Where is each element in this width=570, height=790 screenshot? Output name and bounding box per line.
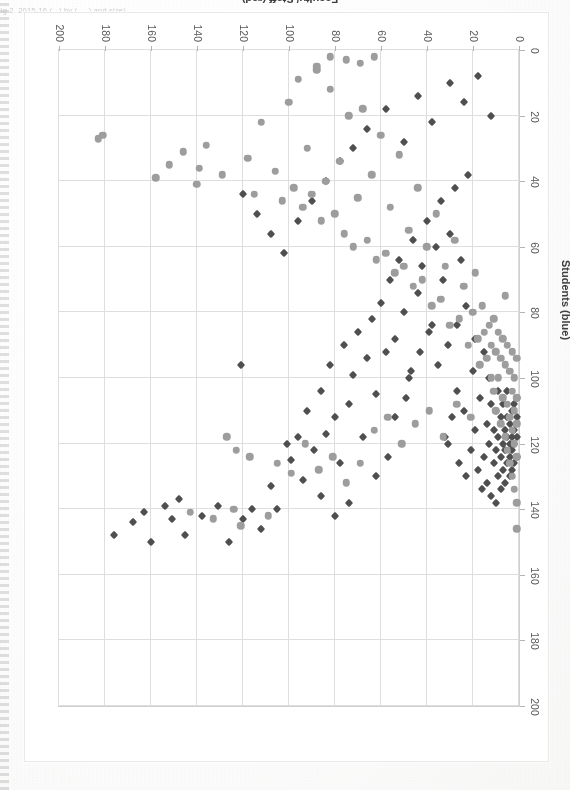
- data-point: [370, 427, 378, 435]
- data-point: [400, 138, 408, 146]
- page-edge-bleed: [0, 0, 9, 790]
- data-point: [349, 144, 357, 152]
- data-point: [460, 282, 468, 290]
- data-point: [469, 309, 477, 317]
- data-point: [508, 473, 516, 481]
- y-tick-label: 80: [529, 308, 541, 320]
- plot-area: [58, 49, 520, 707]
- data-point: [409, 236, 417, 244]
- data-point: [400, 263, 408, 271]
- data-point: [478, 485, 486, 493]
- data-point: [423, 216, 431, 224]
- data-point: [437, 197, 445, 205]
- data-point: [345, 498, 353, 506]
- data-point: [285, 99, 293, 107]
- data-point: [494, 472, 502, 480]
- data-point: [464, 170, 472, 178]
- data-point: [501, 292, 509, 300]
- data-points-layer: [59, 50, 519, 706]
- data-point: [492, 498, 500, 506]
- x-tick-mark: [381, 46, 382, 51]
- data-point: [377, 298, 385, 306]
- data-point: [471, 426, 479, 434]
- data-point: [384, 452, 392, 460]
- y-tick-mark: [520, 575, 525, 576]
- data-point: [317, 387, 325, 395]
- x-tick-label: 120: [238, 24, 250, 42]
- data-point: [299, 475, 307, 483]
- y-axis-title: Students (blue): [560, 260, 570, 340]
- scanned-page: Fig 2. 2015-16 (...) by (.....) and size…: [0, 0, 570, 790]
- data-point: [303, 407, 311, 415]
- data-point: [492, 407, 500, 415]
- data-point: [140, 508, 148, 516]
- data-point: [287, 456, 295, 464]
- data-point: [349, 370, 357, 378]
- data-point: [370, 53, 378, 61]
- data-point: [363, 354, 371, 362]
- x-tick-mark: [473, 46, 474, 51]
- data-point: [398, 440, 406, 448]
- data-point: [368, 171, 376, 179]
- y-tick-label: 0: [529, 48, 541, 54]
- data-point: [457, 256, 465, 264]
- y-tick-label: 60: [529, 242, 541, 254]
- data-point: [202, 141, 210, 149]
- data-point: [294, 216, 302, 224]
- data-point: [465, 341, 473, 349]
- data-point: [290, 184, 298, 192]
- x-tick-mark: [243, 46, 244, 51]
- data-point: [504, 446, 512, 454]
- y-tick-label: 180: [529, 633, 541, 651]
- data-point: [288, 469, 296, 477]
- data-point: [434, 361, 442, 369]
- data-point: [345, 400, 353, 408]
- data-point: [336, 158, 344, 166]
- data-point: [513, 394, 521, 402]
- x-tick-label: 160: [146, 24, 158, 42]
- y-tick-mark: [520, 50, 525, 51]
- data-point: [343, 56, 351, 64]
- x-tick-label: 80: [330, 30, 342, 42]
- data-point: [343, 479, 351, 487]
- data-point: [310, 446, 318, 454]
- data-point: [460, 98, 468, 106]
- y-tick-label: 100: [529, 370, 541, 388]
- data-point: [232, 446, 240, 454]
- data-point: [230, 505, 238, 513]
- data-point: [483, 355, 491, 363]
- data-point: [197, 512, 205, 520]
- data-point: [363, 124, 371, 132]
- data-point: [451, 236, 459, 244]
- data-point: [404, 374, 412, 382]
- data-point: [266, 482, 274, 490]
- data-point: [244, 154, 252, 162]
- data-point: [196, 164, 204, 172]
- x-axis-title: Faculty/ Staff (red): [242, 0, 339, 5]
- x-tick-label: 100: [284, 24, 296, 42]
- x-tick-label: 140: [192, 24, 204, 42]
- data-point: [508, 427, 516, 435]
- data-point: [476, 393, 484, 401]
- data-point: [396, 151, 404, 159]
- data-point: [485, 439, 493, 447]
- data-point: [402, 393, 410, 401]
- data-point: [372, 390, 380, 398]
- data-point: [326, 361, 334, 369]
- data-point: [377, 132, 385, 140]
- data-point: [511, 407, 519, 415]
- data-point: [313, 63, 321, 71]
- data-point: [357, 460, 365, 468]
- data-point: [513, 355, 521, 363]
- data-point: [251, 191, 259, 199]
- data-point: [236, 361, 244, 369]
- data-point: [391, 334, 399, 342]
- data-point: [476, 361, 484, 369]
- chart-frame: 020406080100120140160180200 020406080100…: [24, 12, 549, 762]
- y-tick-mark: [520, 247, 525, 248]
- data-point: [473, 466, 481, 474]
- y-tick-mark: [520, 116, 525, 117]
- data-point: [280, 249, 288, 257]
- data-point: [373, 256, 381, 264]
- data-point: [455, 315, 463, 323]
